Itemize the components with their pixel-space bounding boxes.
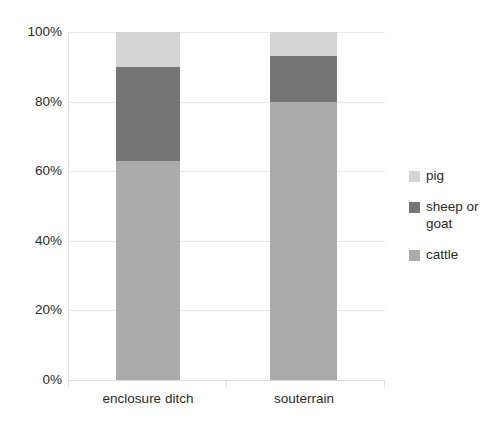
bar-segment-sheep-or-goat[interactable]	[116, 67, 180, 161]
x-axis-tick-label-souterrain: souterrain	[274, 392, 334, 407]
stacked-bar-chart: 100% 80% 60% 40% 20% 0%	[0, 0, 504, 436]
y-axis-tick-label: 40%	[2, 234, 62, 248]
bar-segment-sheep-or-goat[interactable]	[270, 56, 337, 101]
y-axis-tick-label: 0%	[2, 373, 62, 387]
plot-area	[68, 32, 385, 380]
bar-group-souterrain[interactable]	[270, 32, 337, 380]
legend-label: cattle	[426, 247, 458, 264]
legend-swatch-icon	[409, 250, 420, 261]
legend: pig sheep or goat cattle	[409, 168, 501, 264]
bar-segment-pig[interactable]	[116, 32, 180, 67]
y-axis-tick-label: 20%	[2, 304, 62, 318]
bar-segment-cattle[interactable]	[116, 161, 180, 380]
x-axis-tick-marks	[68, 381, 385, 389]
y-axis-tick-label: 60%	[2, 164, 62, 178]
x-tick-mark	[68, 381, 69, 387]
bar-stack	[270, 32, 337, 380]
y-axis-tick-label: 100%	[2, 25, 62, 39]
bar-segment-pig[interactable]	[270, 32, 337, 56]
legend-item-cattle[interactable]: cattle	[409, 247, 501, 264]
legend-item-sheep-or-goat[interactable]: sheep or goat	[409, 199, 501, 233]
x-tick-mark	[384, 381, 385, 387]
legend-item-pig[interactable]: pig	[409, 168, 501, 185]
bar-group-enclosure-ditch[interactable]	[116, 32, 180, 380]
x-axis: enclosure ditch souterrain	[68, 392, 385, 416]
bar-segment-cattle[interactable]	[270, 102, 337, 380]
x-axis-tick-label-enclosure-ditch: enclosure ditch	[103, 392, 194, 407]
legend-label: pig	[426, 168, 444, 185]
x-tick-mark	[226, 381, 227, 387]
bar-stack	[116, 32, 180, 380]
legend-swatch-icon	[409, 202, 420, 213]
y-axis: 100% 80% 60% 40% 20% 0%	[0, 32, 62, 380]
legend-swatch-icon	[409, 171, 420, 182]
y-axis-tick-label: 80%	[2, 95, 62, 109]
legend-label: sheep or goat	[426, 199, 488, 233]
